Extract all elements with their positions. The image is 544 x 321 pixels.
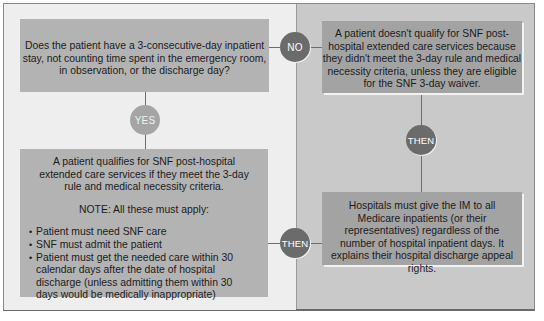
- im-outcome-box: Hospitals must give the IM to all Medica…: [322, 192, 522, 265]
- yes-connector-badge: YES: [130, 105, 160, 135]
- then-connector-badge-bottom: THEN: [280, 228, 310, 258]
- requirement-item: Patient must get the needed care within …: [29, 252, 268, 302]
- im-outcome-text: Hospitals must give the IM to all Medica…: [322, 200, 522, 276]
- no-outcome-box: A patient doesn't qualify for SNF post-h…: [322, 21, 522, 93]
- requirements-list: Patient must need SNF care SNF must admi…: [20, 226, 268, 302]
- then-connector-badge-right: THEN: [406, 125, 436, 155]
- no-outcome-text: A patient doesn't qualify for SNF post-h…: [322, 28, 522, 91]
- question-box: Does the patient have a 3-consecutive-da…: [20, 19, 269, 92]
- requirement-item: SNF must admit the patient: [29, 239, 268, 252]
- requirement-item: Patient must need SNF care: [29, 226, 268, 239]
- yes-outcome-note: NOTE: All these must apply:: [20, 204, 268, 217]
- yes-outcome-box: A patient qualifies for SNF post-hospita…: [20, 149, 268, 297]
- question-text: Does the patient have a 3-consecutive-da…: [20, 40, 269, 78]
- yes-outcome-text: A patient qualifies for SNF post-hospita…: [20, 156, 268, 194]
- no-connector-badge: NO: [280, 32, 310, 62]
